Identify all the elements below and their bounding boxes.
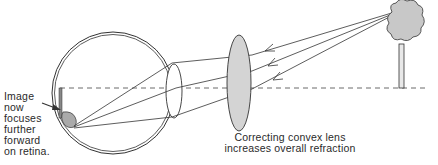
lens-label: Correcting convex lens increases overall… — [195, 132, 385, 154]
retina-label: Image now focuses further forward on ret… — [4, 91, 64, 157]
corrective-lens — [227, 35, 251, 131]
tree-object — [387, 0, 424, 88]
lens-label-line: increases overall refraction — [195, 143, 385, 154]
eyeball — [52, 32, 174, 154]
retina-label-line: on retina. — [4, 146, 64, 157]
